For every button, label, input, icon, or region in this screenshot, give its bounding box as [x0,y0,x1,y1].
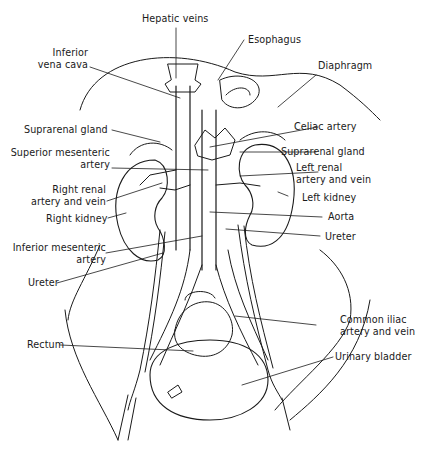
label-text: Superior mesenteric [6,147,110,159]
label-text: Inferior [36,47,88,59]
label-text: Suprarenal gland [281,146,365,157]
label-suprarenal-gland-right: Suprarenal gland [24,124,108,136]
label-text: Common iliac [340,314,415,326]
rectum-shape [175,302,233,357]
label-text: Ureter [325,231,356,242]
label-celiac-artery: Celiac artery [294,121,357,133]
label-text: Inferior mesenteric [4,242,106,254]
label-inferior-vena-cava: Inferior vena cava [36,47,88,71]
label-suprarenal-gland-left: Suprarenal gland [281,146,365,158]
label-text: Hepatic veins [142,13,208,24]
label-text: Esophagus [248,34,301,45]
label-left-renal-artery-vein: Left renal artery and vein [296,162,371,186]
esophagus-shape [220,76,259,108]
label-common-iliac-artery-vein: Common iliac artery and vein [340,314,415,338]
label-diaphragm: Diaphragm [318,60,372,72]
label-aorta: Aorta [328,211,354,223]
label-superior-mesenteric-artery: Superior mesenteric artery [6,147,110,171]
left-ureter [238,225,282,400]
label-urinary-bladder: Urinary bladder [335,351,411,363]
label-text: Diaphragm [318,60,372,71]
label-text: Celiac artery [294,121,357,132]
label-esophagus: Esophagus [248,34,301,46]
aorta-shape [202,110,216,270]
label-text: artery and vein [10,196,106,208]
label-inferior-mesenteric-artery: Inferior mesenteric artery [4,242,106,266]
body-outline-left [65,310,118,440]
label-text: artery and vein [340,326,415,338]
label-left-kidney: Left kidney [302,192,356,204]
label-text: artery and vein [296,174,371,186]
anatomy-diagram: Hepatic veins Esophagus Inferior vena ca… [0,0,436,452]
label-text: Rectum [27,339,64,350]
right-kidney-shape [116,160,167,261]
label-text: Left renal [296,162,371,174]
right-ureter [128,230,160,410]
urinary-bladder-shape [150,340,268,420]
label-text: Left kidney [302,192,356,203]
label-text: artery [6,159,110,171]
label-text: Right kidney [46,213,107,224]
label-right-kidney: Right kidney [46,213,107,225]
label-text: Ureter [28,277,59,288]
label-text: vena cava [36,59,88,71]
label-hepatic-veins: Hepatic veins [142,13,208,25]
label-right-renal-artery-vein: Right renal artery and vein [10,184,106,208]
label-rectum: Rectum [27,339,64,351]
inferior-vena-cava-shape [176,86,190,250]
label-text: Urinary bladder [335,351,411,362]
label-ureter-left: Ureter [325,231,356,243]
label-text: artery [4,254,106,266]
label-text: Aorta [328,211,354,222]
label-text: Right renal [10,184,106,196]
label-text: Suprarenal gland [24,124,108,135]
label-ureter-right: Ureter [28,277,59,289]
